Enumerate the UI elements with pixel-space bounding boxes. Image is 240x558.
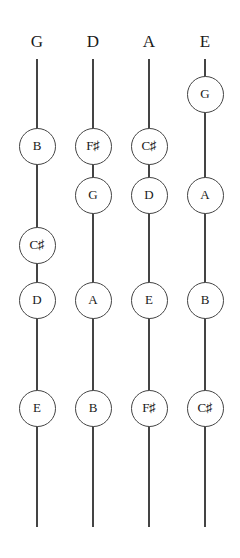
note-circle: F♯ <box>131 390 168 427</box>
note-circle: G <box>75 177 112 214</box>
note-circle: C♯ <box>187 390 224 427</box>
note-circle: E <box>131 282 168 319</box>
note-circle: B <box>19 128 56 165</box>
string-label-d: D <box>78 31 108 53</box>
note-circle: E <box>19 390 56 427</box>
note-circle: A <box>187 177 224 214</box>
note-circle: F♯ <box>75 128 112 165</box>
note-circle: B <box>75 390 112 427</box>
note-circle: B <box>187 282 224 319</box>
note-circle: C♯ <box>19 227 56 264</box>
note-circle: G <box>187 76 224 113</box>
note-circle: A <box>75 282 112 319</box>
string-label-g: G <box>22 31 52 53</box>
note-circle: D <box>19 282 56 319</box>
note-circle: C♯ <box>131 128 168 165</box>
string-label-a: A <box>134 31 164 53</box>
note-circle: D <box>131 177 168 214</box>
string-label-e: E <box>190 31 220 53</box>
